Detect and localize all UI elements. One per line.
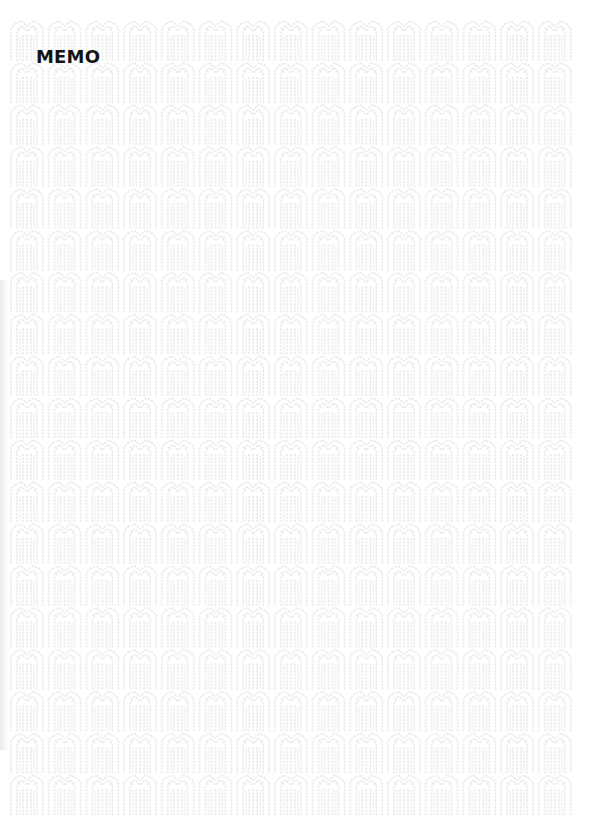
background-pattern	[8, 20, 574, 816]
memo-title: MEMO	[36, 46, 100, 67]
memo-page: MEMO	[0, 0, 599, 829]
m-pattern-icon	[8, 20, 574, 816]
